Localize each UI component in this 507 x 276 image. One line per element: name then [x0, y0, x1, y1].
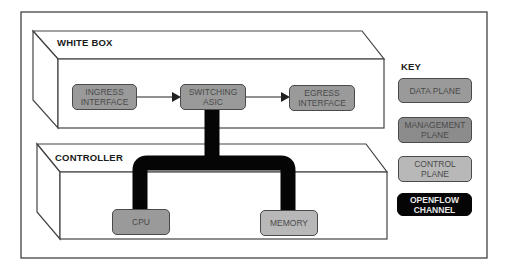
ingress-interface-node: INGRESSINTERFACE	[72, 84, 137, 110]
key-control-plane: CONTROLPLANE	[398, 156, 472, 182]
ingress-line1: INGRESS	[81, 87, 129, 97]
cpu-node: CPU	[112, 209, 170, 235]
key-ctrl-line2: PLANE	[414, 169, 456, 179]
key-management-plane: MANAGEMENTPLANE	[398, 117, 472, 143]
cpu-label: CPU	[132, 217, 150, 227]
key-of-line1: OPENFLOW	[410, 195, 459, 205]
switching-line2: ASIC	[189, 97, 238, 107]
ingress-line2: INTERFACE	[81, 97, 129, 107]
controller-title: CONTROLLER	[55, 152, 123, 163]
white-box-title: WHITE BOX	[57, 37, 113, 48]
key-ctrl-line1: CONTROL	[414, 159, 456, 169]
key-of-line2: CHANNEL	[410, 205, 459, 215]
key-mgmt-line2: PLANE	[405, 130, 466, 140]
key-title: KEY	[401, 61, 421, 72]
key-mgmt-line1: MANAGEMENT	[405, 120, 466, 130]
key-openflow-channel: OPENFLOWCHANNEL	[397, 193, 472, 216]
memory-node: MEMORY	[260, 210, 318, 236]
memory-label: MEMORY	[270, 218, 308, 228]
switching-asic-node: SWITCHINGASIC	[180, 84, 246, 110]
egress-interface-node: EGRESSINTERFACE	[289, 85, 355, 111]
key-data-plane-label: DATA PLANE	[409, 86, 460, 96]
key-data-plane: DATA PLANE	[398, 78, 472, 103]
switching-line1: SWITCHING	[189, 87, 238, 97]
egress-line1: EGRESS	[298, 88, 346, 98]
egress-line2: INTERFACE	[298, 98, 346, 108]
